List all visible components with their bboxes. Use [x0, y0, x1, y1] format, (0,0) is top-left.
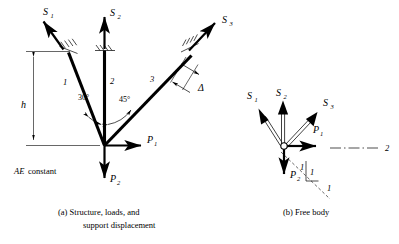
fb-slope-dashed-line	[281, 152, 330, 199]
label-p1: P	[146, 134, 153, 145]
delta-arrow-upper	[182, 64, 200, 75]
free-body-diagram: S 1 S 2 S 3 P 1 P 2 2 1 1	[247, 87, 390, 199]
label-ae: AE	[13, 166, 25, 176]
fb-label-s2: S	[276, 87, 281, 98]
joint-loads: P 1 P 2	[105, 134, 158, 186]
reaction-arrow-s1	[44, 22, 64, 50]
fb-label-s1: S	[247, 90, 252, 101]
fb-label-p1: P	[312, 124, 319, 135]
figure-root: S 1 S 2 S 3 1 2 3 30° 45°	[0, 0, 399, 244]
label-member-3: 3	[149, 74, 154, 84]
fb-vector-s2-head	[278, 101, 288, 115]
fb-label-s1-sub: 1	[255, 96, 258, 103]
fb-label-s2-sub: 2	[284, 93, 288, 100]
fb-vector-s3-shaft	[285, 119, 312, 147]
free-body-slope-indicator: 1 1 1	[281, 152, 331, 199]
truss-figure-svg: S 1 S 2 S 3 1 2 3 30° 45°	[0, 0, 399, 244]
free-body-force-vectors	[259, 101, 318, 175]
label-s1: S	[43, 6, 48, 17]
displacement-dimension: Δ	[171, 57, 205, 93]
label-p1-sub: 1	[154, 140, 157, 147]
label-s2-sub: 2	[118, 13, 122, 20]
delta-ext-line-1	[171, 57, 187, 83]
fb-axis-label: 2	[385, 143, 390, 153]
delta-arrow-lower	[173, 82, 191, 93]
label-member-1: 1	[63, 77, 67, 87]
label-p2: P	[109, 173, 116, 184]
label-s2: S	[110, 7, 115, 18]
fb-label-p1-sub: 1	[320, 130, 323, 137]
free-body-reference-axis: 2	[330, 143, 390, 153]
support-reaction-arrows	[44, 17, 216, 51]
structure-diagram: S 1 S 2 S 3 1 2 3 30° 45°	[13, 6, 234, 186]
label-angle-45: 45°	[119, 95, 130, 104]
fb-slope-run-label: 1	[310, 167, 314, 177]
label-p2-sub: 2	[117, 179, 121, 186]
support-force-labels: S 1 S 2 S 3	[43, 6, 234, 27]
material-note: AE constant	[13, 166, 57, 176]
label-s1-sub: 1	[51, 12, 54, 19]
fb-label-p2: P	[289, 169, 296, 180]
fb-label-s3: S	[323, 97, 328, 108]
caption-a-line1: (a) Structure, loads, and	[58, 207, 140, 217]
label-angle-30: 30°	[78, 93, 89, 102]
fb-vector-s2-shaft	[282, 111, 285, 145]
caption-b: (b) Free body	[283, 207, 330, 217]
fb-label-s3-sub: 3	[330, 103, 335, 110]
fb-slope-tick-label: 1	[327, 183, 331, 193]
figure-captions: (a) Structure, loads, and support displa…	[58, 207, 330, 230]
label-ae-constant: constant	[28, 166, 57, 176]
label-height-h: h	[21, 99, 26, 110]
label-s3-sub: 3	[229, 20, 234, 27]
free-body-labels: S 1 S 2 S 3 P 1 P 2	[247, 87, 335, 182]
label-s3: S	[222, 14, 227, 25]
fb-label-p2-sub: 2	[297, 175, 301, 182]
label-member-2: 2	[110, 76, 115, 86]
label-delta: Δ	[197, 82, 204, 93]
delta-ext-line-2	[183, 65, 199, 91]
fb-joint-node	[281, 143, 287, 149]
caption-a-line2: support displacement	[83, 220, 156, 230]
fb-slope-rise-label: 1	[300, 162, 304, 172]
